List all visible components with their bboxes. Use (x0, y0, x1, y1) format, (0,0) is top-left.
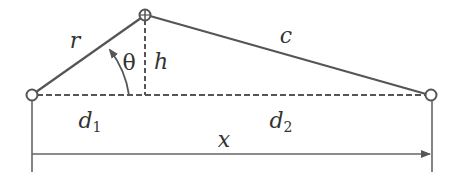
top-node-circle-icon (140, 10, 151, 21)
label-x: x (218, 129, 230, 151)
label-d1: d1 (78, 110, 101, 134)
right-node-circle-icon (426, 90, 437, 101)
label-d2: d2 (269, 110, 292, 134)
label-theta: θ (122, 52, 135, 74)
triangle-geometry-diagram: r θ h c d1 d2 x (0, 0, 452, 176)
label-h: h (154, 51, 168, 73)
label-d2-subscript: 2 (284, 119, 293, 135)
label-r: r (70, 30, 81, 52)
left-node-circle-icon (27, 90, 38, 101)
label-c: c (280, 25, 292, 47)
label-d2-base: d (269, 108, 283, 133)
label-d1-subscript: 1 (93, 119, 102, 135)
label-d1-base: d (78, 108, 92, 133)
